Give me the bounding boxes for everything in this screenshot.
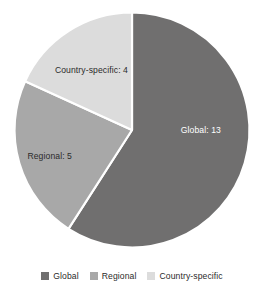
legend-item-country-specific[interactable]: Country-specific: [147, 272, 222, 281]
legend-swatch-regional: [90, 272, 98, 280]
pie-slice-label-regional: Regional: 5: [27, 151, 72, 161]
pie-chart-figure: Global: 13Regional: 5Country-specific: 4…: [0, 0, 264, 292]
legend-swatch-global: [41, 272, 49, 280]
legend-label-global: Global: [53, 272, 78, 281]
chart-legend: Global Regional Country-specific: [0, 266, 264, 286]
legend-swatch-country-specific: [147, 272, 155, 280]
legend-item-global[interactable]: Global: [41, 272, 78, 281]
pie-slice-label-global: Global: 13: [181, 125, 221, 135]
pie-slice-label-country-specific: Country-specific: 4: [55, 65, 128, 75]
legend-label-country-specific: Country-specific: [159, 272, 222, 281]
legend-label-regional: Regional: [102, 272, 137, 281]
pie-chart-svg: Global: 13Regional: 5Country-specific: 4: [0, 0, 264, 292]
legend-item-regional[interactable]: Regional: [90, 272, 137, 281]
